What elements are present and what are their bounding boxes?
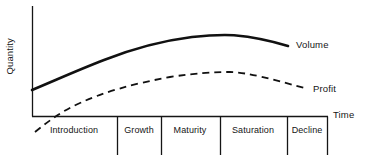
- volume-series-label: Volume: [296, 40, 329, 50]
- profit-series-label: Profit: [313, 84, 336, 94]
- stage-label-introduction: Introduction: [50, 126, 98, 135]
- stage-label-saturation: Saturation: [232, 126, 274, 135]
- x-axis-title: Time: [333, 110, 354, 120]
- y-axis-title: Quantity: [5, 38, 15, 75]
- stage-label-decline: Decline: [292, 126, 323, 135]
- plot-area: [0, 0, 371, 163]
- stage-label-growth: Growth: [124, 126, 154, 135]
- product-life-cycle-diagram: Quantity Time Volume Profit Introduction…: [0, 0, 371, 163]
- profit-curve: [35, 72, 305, 132]
- volume-curve: [32, 35, 288, 90]
- stage-label-maturity: Maturity: [174, 126, 207, 135]
